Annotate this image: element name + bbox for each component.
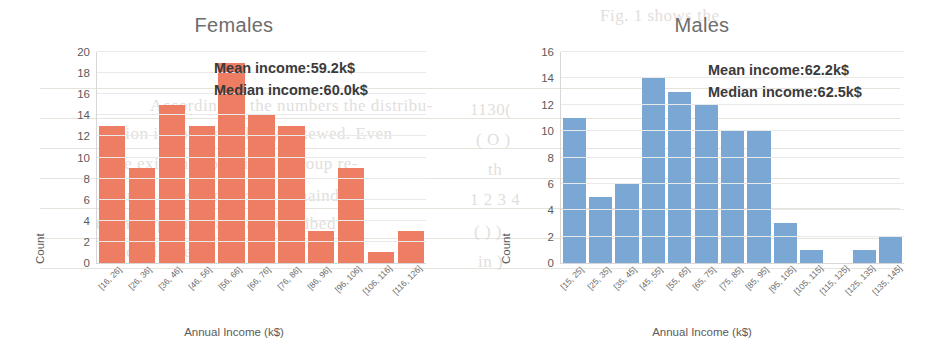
gridline (97, 262, 426, 263)
x-tick-slot: [75, 85] (719, 263, 745, 325)
x-tick-slot: [36, 46] (157, 263, 187, 325)
y-tick-label: 10 (77, 152, 97, 164)
x-tick-slot: [65, 75] (693, 263, 719, 325)
x-tick-label: [15, 25] (559, 265, 586, 292)
x-tick-slot: [35, 45] (614, 263, 640, 325)
x-tick-slot: [46, 56] (187, 263, 217, 325)
y-tick-label: 8 (548, 152, 561, 164)
bar-slot (614, 52, 640, 263)
x-tick-label: [46, 56] (186, 265, 213, 292)
histogram-bar (721, 131, 744, 263)
x-tick-label: [26, 36] (126, 265, 153, 292)
bar-slot (667, 52, 693, 263)
median-income-text-males: Median income:62.5k$ (708, 82, 862, 104)
x-tick-slot: [106, 116] (366, 263, 396, 325)
gridline (97, 199, 426, 200)
histogram-bar (189, 126, 215, 263)
bar-slot (640, 52, 666, 263)
gridline (561, 183, 904, 184)
gridline (561, 157, 904, 158)
figure-container: Females Count [16, 26][26, 36][36, 46][4… (0, 0, 936, 364)
histogram-bar (747, 131, 770, 263)
x-tick-slot: [95, 105] (772, 263, 798, 325)
chart-panel-females: Females Count [16, 26][26, 36][36, 46][4… (0, 0, 468, 364)
x-tick-label: [16, 26] (96, 265, 123, 292)
gridline (561, 236, 904, 237)
histogram-bar (563, 118, 586, 263)
gridline (97, 178, 426, 179)
y-tick-label: 14 (77, 109, 97, 121)
x-tick-slot: [105, 115] (799, 263, 825, 325)
x-tick-slot: [45, 55] (640, 263, 666, 325)
x-tick-slot: [85, 95] (746, 263, 772, 325)
y-tick-label: 4 (548, 204, 561, 216)
x-tick-labels-females: [16, 26][26, 36][36, 46][46, 56][56, 66]… (97, 263, 426, 325)
x-tick-label: [35, 45] (611, 265, 638, 292)
y-tick-label: 20 (77, 46, 97, 58)
x-tick-label: [76, 86] (276, 265, 303, 292)
x-tick-label: [75, 85] (717, 265, 744, 292)
histogram-bar (129, 168, 155, 263)
x-tick-slot: [86, 96] (306, 263, 336, 325)
bar-slot (187, 52, 217, 263)
y-tick-label: 2 (548, 231, 561, 243)
x-tick-slot: [16, 26] (97, 263, 127, 325)
gridline (561, 209, 904, 210)
gridline (97, 157, 426, 158)
y-tick-label: 18 (77, 67, 97, 79)
x-tick-labels-males: [15, 25][25, 35][35, 45][45, 55][55, 65]… (561, 263, 904, 325)
x-tick-label: [55, 65] (664, 265, 691, 292)
bar-slot (366, 52, 396, 263)
annotation-males: Mean income:62.2k$ Median income:62.5k$ (708, 60, 862, 104)
gridline (97, 135, 426, 136)
mean-income-text-males: Mean income:62.2k$ (708, 60, 862, 82)
y-tick-label: 12 (541, 99, 561, 111)
bar-slot (157, 52, 187, 263)
median-income-text-females: Median income:60.0k$ (214, 80, 368, 102)
y-tick-label: 6 (548, 178, 561, 190)
histogram-bar (338, 168, 364, 263)
y-tick-label: 2 (84, 236, 97, 248)
y-axis-label-females: Count (34, 52, 46, 264)
x-tick-label: [66, 76] (246, 265, 273, 292)
x-tick-label: [25, 35] (585, 265, 612, 292)
gridline (561, 262, 904, 263)
x-tick-label: [106, 116] (361, 263, 394, 296)
x-tick-label: [45, 55] (638, 265, 665, 292)
histogram-bar (695, 105, 718, 263)
x-tick-slot: [55, 65] (667, 263, 693, 325)
histogram-bar (278, 126, 304, 263)
bar-slot (97, 52, 127, 263)
y-tick-label: 6 (84, 194, 97, 206)
bar-slot (561, 52, 587, 263)
x-tick-label: [116, 126] (391, 263, 424, 296)
gridline (561, 51, 904, 52)
x-tick-slot: [56, 66] (217, 263, 247, 325)
x-tick-slot: [15, 25] (561, 263, 587, 325)
gridline (561, 130, 904, 131)
histogram-bar (589, 197, 612, 263)
x-tick-slot: [25, 35] (587, 263, 613, 325)
x-tick-slot: [76, 86] (276, 263, 306, 325)
histogram-bar (774, 223, 797, 263)
gridline (97, 220, 426, 221)
y-tick-label: 0 (84, 257, 97, 269)
bar-slot (587, 52, 613, 263)
chart-title-females: Females (0, 14, 468, 37)
gridline (97, 114, 426, 115)
x-tick-label: [65, 75] (690, 265, 717, 292)
chart-panel-males: Males Count [15, 25][25, 35][35, 45][45,… (468, 0, 936, 364)
histogram-bar (615, 184, 638, 263)
x-tick-slot: [116, 126] (396, 263, 426, 325)
y-tick-label: 10 (541, 125, 561, 137)
annotation-females: Mean income:59.2k$ Median income:60.0k$ (214, 58, 368, 102)
histogram-bar (668, 92, 691, 263)
y-tick-label: 8 (84, 173, 97, 185)
gridline (561, 104, 904, 105)
y-tick-label: 16 (541, 46, 561, 58)
x-axis-label-females: Annual Income (k$) (0, 326, 468, 338)
mean-income-text-females: Mean income:59.2k$ (214, 58, 368, 80)
x-tick-slot: [66, 76] (247, 263, 277, 325)
x-tick-label: [96, 106] (333, 264, 363, 294)
x-axis-label-males: Annual Income (k$) (468, 326, 936, 338)
